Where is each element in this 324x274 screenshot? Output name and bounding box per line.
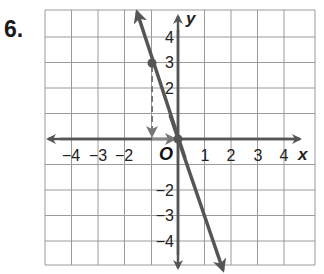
y-tick-2: 2 [165,80,174,97]
point-origin [174,135,183,144]
x-tick-3: 3 [254,147,263,164]
x-tick-4: 4 [280,147,289,164]
y-tick-neg4: −4 [156,233,174,250]
x-axis-label: x [297,145,309,164]
x-tick-1: 1 [201,147,210,164]
y-axis-label: y [185,9,197,28]
x-tick-neg2: −2 [115,147,133,164]
y-tick-4: 4 [165,29,174,46]
x-tick-2: 2 [227,147,236,164]
coordinate-graph: −4 −3 −2 1 2 3 4 4 3 2 −2 −3 −4 y x O [0,0,324,274]
y-tick-3: 3 [165,54,174,71]
point-neg1-3 [148,59,157,68]
x-tick-labels: −4 −3 −2 1 2 3 4 [62,147,289,164]
y-tick-neg3: −3 [156,207,174,224]
x-tick-neg3: −3 [89,147,107,164]
x-tick-neg4: −4 [62,147,80,164]
y-tick-neg2: −2 [156,182,174,199]
origin-label: O [159,144,173,164]
